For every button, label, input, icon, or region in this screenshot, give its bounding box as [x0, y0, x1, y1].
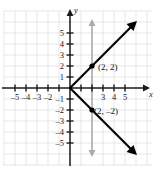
y-tick-label: –3	[55, 116, 65, 126]
y-axis-arrow-icon	[67, 9, 74, 16]
vertical-line-down-arrow-icon	[89, 150, 96, 157]
x-tick-label: 5	[123, 92, 127, 102]
x-tick-label: 3	[101, 92, 105, 102]
y-tick-label: 1	[60, 72, 64, 82]
y-tick-label: –2	[55, 105, 65, 115]
x-tick-label: –2	[43, 92, 53, 102]
x-tick-label: 4	[112, 92, 117, 102]
point-label-upper: (2, 2)	[98, 62, 118, 72]
y-tick-label: –4	[55, 127, 65, 137]
y-axis-label: y	[73, 5, 78, 15]
data-point-upper	[89, 63, 94, 68]
x-axis-label: x	[148, 89, 153, 99]
x-tick-label: –4	[21, 92, 31, 102]
coordinate-graph-figure: –5 –4 –3 –2 3 4 5 5 4 3 2 1 –1 –2 –3 –4 …	[0, 0, 157, 171]
y-tick-label: –1	[55, 94, 65, 104]
y-tick-label: –5	[55, 138, 65, 148]
graph-svg: –5 –4 –3 –2 3 4 5 5 4 3 2 1 –1 –2 –3 –4 …	[0, 0, 157, 171]
x-tick-label: –5	[10, 92, 20, 102]
y-tick-label: 3	[60, 50, 64, 60]
vertical-line-up-arrow-icon	[89, 19, 96, 26]
x-axis	[2, 85, 150, 92]
x-tick-labels: –5 –4 –3 –2 3 4 5	[10, 92, 127, 102]
y-tick-label: 5	[60, 28, 64, 38]
point-label-lower: (2, –2)	[94, 106, 118, 116]
y-tick-label: 2	[60, 61, 64, 71]
x-tick-label: –3	[32, 92, 42, 102]
